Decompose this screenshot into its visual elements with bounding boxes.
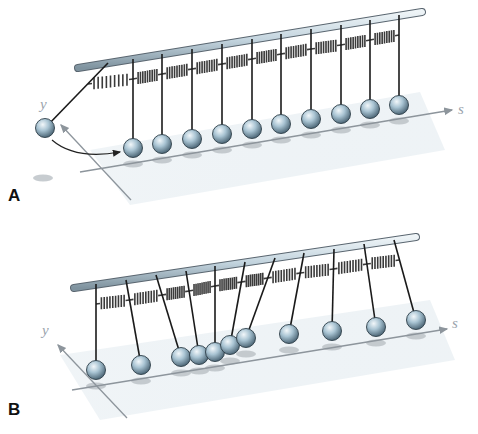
panel-b-label: B [8, 400, 20, 420]
pendulum-ball [272, 115, 291, 134]
panel-a-s-axis-label: s [458, 101, 464, 118]
ball-shadow [279, 347, 299, 354]
pendulum-ball [213, 125, 232, 144]
ball-shadow [236, 351, 256, 358]
spring [96, 295, 130, 310]
spring [252, 49, 281, 64]
pendulum-ball [407, 311, 426, 330]
spring [334, 259, 367, 274]
spring [192, 59, 222, 74]
pendulum-ball [323, 322, 342, 341]
coupled-pendulums-diagram [0, 0, 478, 434]
spring [189, 281, 215, 296]
spring [281, 44, 311, 59]
spring [241, 273, 267, 287]
panel-b-s-axis-label: s [452, 315, 458, 332]
spring [215, 277, 241, 291]
pendulum-ball [361, 100, 380, 119]
pendulum-ball [243, 120, 262, 139]
pendulum-ball [36, 119, 55, 138]
spring [162, 286, 189, 301]
pendulum-ball [302, 110, 321, 129]
spring [367, 255, 400, 270]
pendulum-ball [367, 318, 386, 337]
pendulum-ball [124, 139, 143, 158]
spring [300, 264, 333, 279]
pendulum-ball [332, 105, 351, 124]
spring [162, 64, 192, 79]
ball-shadow [33, 175, 53, 182]
panel-a-y-axis-label: y [40, 96, 47, 113]
pendulum-ball [172, 348, 191, 367]
spring [311, 40, 341, 55]
spring [133, 69, 162, 84]
panel-b [58, 237, 455, 420]
pendulum-ball [390, 96, 409, 115]
pendulum-ball [87, 361, 106, 380]
pendulum-ball [132, 356, 151, 375]
pendulum-ball [183, 130, 202, 149]
pendulum-string [45, 63, 108, 128]
spring [268, 268, 301, 283]
spring [370, 30, 399, 45]
pendulum-ball [280, 325, 299, 344]
spring [341, 35, 370, 50]
pendulum-ball [237, 329, 256, 348]
panel-a-label: A [8, 186, 20, 206]
spring [130, 290, 163, 305]
panel-a [33, 12, 452, 205]
panel-b-y-axis-label: y [42, 322, 49, 339]
pendulum-ball [153, 135, 172, 154]
spring [222, 54, 252, 69]
